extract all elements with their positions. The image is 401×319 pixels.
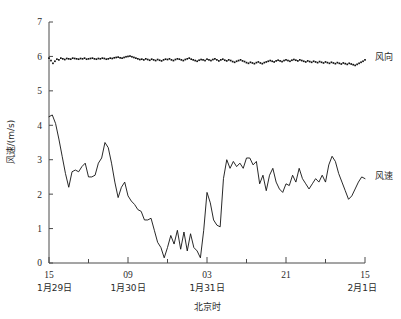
wind-direction-point	[340, 63, 342, 65]
wind-direction-point	[265, 61, 267, 63]
y-tick-label: 6	[37, 52, 42, 62]
wind-direction-point	[329, 62, 331, 64]
wind-direction-point	[117, 56, 119, 58]
wind-direction-point	[188, 57, 190, 59]
wind-direction-point	[226, 60, 228, 62]
wind-direction-point	[171, 59, 173, 61]
wind-direction-point	[103, 58, 105, 60]
wind-direction-point	[238, 60, 240, 62]
wind-direction-point	[100, 58, 102, 60]
x-tick-label: 15	[44, 270, 54, 280]
wind-direction-point	[250, 61, 252, 63]
wind-direction-point	[60, 57, 62, 59]
wind-direction-point	[62, 58, 64, 60]
wind-direction-point	[267, 60, 269, 62]
wind-direction-point	[273, 61, 275, 63]
y-tick-label: 5	[37, 86, 42, 96]
wind-direction-point	[216, 59, 218, 61]
wind-direction-point	[101, 57, 103, 59]
wind-direction-point	[153, 59, 155, 61]
wind-direction-point	[94, 58, 96, 60]
wind-direction-point	[107, 58, 109, 60]
wind-direction-point	[319, 61, 321, 63]
wind-direction-point	[66, 58, 68, 60]
x-axis-title: 北京时	[194, 301, 221, 312]
wind-direction-point	[289, 60, 291, 62]
wind-speed-series-label: 风速	[375, 171, 393, 181]
wind-direction-point	[230, 60, 232, 62]
wind-direction-point	[218, 60, 220, 62]
wind-direction-point	[123, 57, 125, 59]
wind-direction-point	[350, 63, 352, 65]
wind-direction-point	[295, 59, 297, 61]
wind-direction-point	[311, 61, 313, 63]
wind-direction-point	[220, 59, 222, 61]
wind-direction-point	[177, 58, 179, 60]
wind-direction-point	[64, 59, 66, 61]
wind-direction-point	[269, 60, 271, 62]
wind-direction-point	[315, 61, 317, 63]
wind-direction-point	[121, 57, 123, 59]
wind-direction-point	[214, 58, 216, 60]
y-tick-label: 2	[37, 190, 42, 200]
wind-direction-point	[194, 60, 196, 62]
wind-direction-point	[307, 60, 309, 62]
wind-direction-point	[141, 58, 143, 60]
wind-direction-point	[143, 59, 145, 61]
wind-direction-point	[58, 59, 60, 61]
wind-direction-point	[212, 59, 214, 61]
wind-direction-point	[204, 60, 206, 62]
wind-direction-point	[186, 58, 188, 60]
wind-direction-point	[155, 60, 157, 62]
wind-direction-point	[246, 62, 248, 64]
wind-direction-point	[327, 62, 329, 64]
wind-direction-point	[297, 60, 299, 62]
wind-direction-point	[222, 58, 224, 60]
wind-direction-point	[242, 60, 244, 62]
wind-direction-point	[305, 61, 307, 63]
wind-direction-point	[291, 59, 293, 61]
wind-direction-scatter	[48, 55, 366, 66]
wind-direction-point	[182, 60, 184, 62]
wind-direction-point	[279, 60, 281, 62]
wind-direction-point	[283, 60, 285, 62]
x-axis-tick-labels: 1509032115	[44, 270, 370, 280]
wind-direction-point	[228, 59, 230, 61]
wind-direction-point	[263, 62, 265, 64]
wind-direction-point	[88, 58, 90, 60]
wind-direction-point	[236, 60, 238, 62]
y-tick-label: 0	[37, 258, 42, 268]
wind-direction-point	[293, 59, 295, 61]
wind-direction-point	[275, 60, 277, 62]
wind-direction-point	[352, 64, 354, 66]
wind-direction-point	[277, 59, 279, 61]
wind-direction-point	[285, 59, 287, 61]
wind-direction-point	[84, 57, 86, 59]
wind-direction-point	[149, 59, 151, 61]
wind-direction-point	[360, 61, 362, 63]
wind-direction-point	[335, 63, 337, 65]
wind-direction-point	[159, 59, 161, 61]
wind-direction-point	[151, 58, 153, 60]
wind-direction-point	[56, 58, 58, 60]
wind-direction-point	[281, 61, 283, 63]
wind-direction-point	[78, 58, 80, 60]
wind-direction-point	[167, 59, 169, 61]
wind-direction-point	[258, 61, 260, 63]
wind-direction-point	[254, 63, 256, 65]
wind-direction-point	[169, 58, 171, 60]
wind-direction-point	[309, 61, 311, 63]
wind-direction-point	[206, 58, 208, 60]
wind-direction-point	[299, 59, 301, 61]
wind-direction-point	[133, 57, 135, 59]
wind-direction-point	[313, 60, 315, 62]
wind-direction-point	[145, 58, 147, 60]
wind-direction-point	[338, 62, 340, 64]
wind-direction-point	[224, 59, 226, 61]
wind-direction-point	[70, 58, 72, 60]
wind-direction-point	[348, 62, 350, 64]
wind-direction-point	[129, 55, 131, 57]
wind-direction-point	[333, 62, 335, 64]
wind-direction-point	[244, 61, 246, 63]
x-tick-label: 03	[202, 270, 212, 280]
